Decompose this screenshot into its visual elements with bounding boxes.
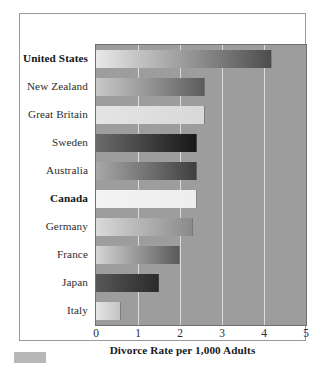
x-tick-label: 2 bbox=[177, 327, 183, 339]
bar bbox=[96, 302, 121, 320]
bar-row bbox=[96, 73, 306, 101]
plot-area bbox=[95, 44, 307, 326]
category-label: Italy bbox=[20, 296, 94, 324]
bar-series bbox=[96, 45, 306, 325]
gridline bbox=[306, 45, 307, 325]
bar-row bbox=[96, 297, 306, 325]
category-label: Sweden bbox=[20, 128, 94, 156]
x-tick-label: 1 bbox=[135, 327, 141, 339]
bar-row bbox=[96, 101, 306, 129]
bar-row bbox=[96, 269, 306, 297]
x-axis-ticks: 012345 bbox=[95, 327, 307, 343]
bar bbox=[96, 246, 180, 264]
x-tick-label: 0 bbox=[93, 327, 99, 339]
x-tick-label: 5 bbox=[303, 327, 309, 339]
category-label: Canada bbox=[20, 184, 94, 212]
bar bbox=[96, 218, 193, 236]
x-tick-label: 3 bbox=[219, 327, 225, 339]
category-label: Australia bbox=[20, 156, 94, 184]
bar bbox=[96, 50, 272, 68]
bar-row bbox=[96, 213, 306, 241]
color-swatch bbox=[14, 352, 46, 363]
bar bbox=[96, 190, 197, 208]
category-label: France bbox=[20, 240, 94, 268]
category-label: Japan bbox=[20, 268, 94, 296]
bar bbox=[96, 162, 197, 180]
bar bbox=[96, 106, 205, 124]
bar-row bbox=[96, 157, 306, 185]
chart-frame: United StatesNew ZealandGreat BritainSwe… bbox=[19, 13, 306, 341]
bar-row bbox=[96, 45, 306, 73]
bar bbox=[96, 134, 197, 152]
bar bbox=[96, 274, 159, 292]
x-tick-label: 4 bbox=[261, 327, 267, 339]
category-label: Germany bbox=[20, 212, 94, 240]
bar-row bbox=[96, 185, 306, 213]
category-axis: United StatesNew ZealandGreat BritainSwe… bbox=[20, 44, 94, 324]
x-axis-title: Divorce Rate per 1,000 Adults bbox=[39, 344, 322, 356]
category-label: New Zealand bbox=[20, 72, 94, 100]
bar bbox=[96, 78, 205, 96]
bar-row bbox=[96, 241, 306, 269]
category-label: United States bbox=[20, 44, 94, 72]
bar-row bbox=[96, 129, 306, 157]
category-label: Great Britain bbox=[20, 100, 94, 128]
